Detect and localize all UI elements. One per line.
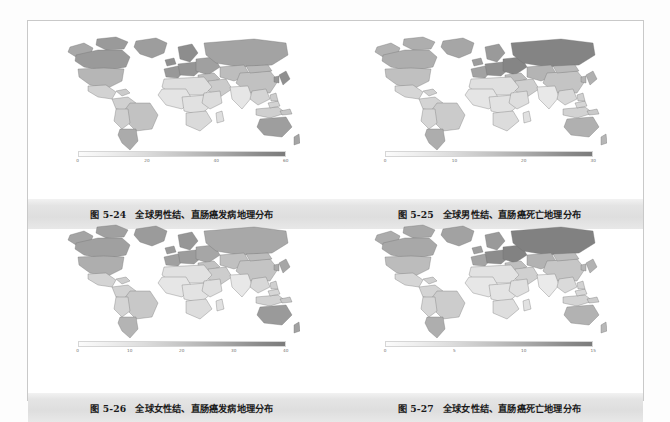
colorbar-tick: 5 — [453, 348, 456, 354]
colorbar-tick-labels: 0 20 40 60 — [78, 158, 286, 168]
world-choropleth-male-incidence-map — [64, 33, 300, 151]
colorbar-tick: 0 — [76, 158, 79, 164]
figure-row-bottom: 0 10 20 30 40 — [28, 211, 643, 401]
colorbar-tick-labels: 0 5 10 15 — [385, 348, 593, 358]
caption-number: 图 5-26 — [90, 401, 126, 415]
colorbar-tick: 10 — [127, 348, 133, 354]
colorbar-gradient-bar — [385, 341, 593, 347]
map-block-5-25 — [336, 33, 644, 158]
page-frame-border: 0 20 40 60 — [27, 20, 644, 401]
caption-number: 图 5-27 — [398, 401, 434, 415]
colorbar-male-incidence: 0 20 40 60 — [78, 151, 286, 168]
colorbar-tick-labels: 0 10 20 30 — [385, 158, 593, 168]
caption-5-27: 图 5-27 全球女性结、直肠癌死亡地理分布 — [336, 393, 644, 422]
colorbar-tick: 30 — [231, 348, 237, 354]
colorbar-tick-labels: 0 10 20 30 40 — [78, 348, 286, 358]
world-choropleth-female-incidence-map — [64, 221, 300, 339]
figure-row-top: 0 20 40 60 — [28, 23, 643, 211]
colorbar-tick: 20 — [179, 348, 185, 354]
figure-5-25: 0 10 20 30 — [336, 23, 644, 211]
colorbar-male-mortality: 0 10 20 30 — [385, 151, 593, 168]
figure-5-27: 0 5 10 15 — [336, 211, 644, 401]
figure-5-26: 0 10 20 30 40 — [28, 211, 336, 401]
caption-title: 全球女性结、直肠癌发病地理分布 — [135, 401, 273, 415]
map-block-5-27 — [336, 221, 644, 346]
figure-5-24: 0 20 40 60 — [28, 23, 336, 211]
world-choropleth-female-mortality-map — [371, 221, 607, 339]
caption-band-bottom: 图 5-26 全球女性结、直肠癌发病地理分布 图 5-27 全球女性结、直肠癌死… — [28, 393, 643, 422]
world-choropleth-male-mortality-map — [371, 33, 607, 151]
colorbar-gradient-bar — [385, 151, 593, 157]
colorbar-tick: 40 — [214, 158, 220, 164]
colorbar-tick: 30 — [590, 158, 596, 164]
colorbar-female-mortality: 0 5 10 15 — [385, 341, 593, 358]
colorbar-tick: 0 — [384, 158, 387, 164]
colorbar-gradient-bar — [78, 151, 286, 157]
colorbar-tick: 15 — [590, 348, 596, 354]
map-block-5-24 — [28, 33, 336, 158]
caption-title: 全球女性结、直肠癌死亡地理分布 — [443, 401, 581, 415]
map-block-5-26 — [28, 221, 336, 346]
colorbar-tick: 10 — [452, 158, 458, 164]
colorbar-gradient-bar — [78, 341, 286, 347]
colorbar-tick: 0 — [76, 348, 79, 354]
caption-5-26: 图 5-26 全球女性结、直肠癌发病地理分布 — [28, 393, 336, 422]
colorbar-tick: 10 — [521, 348, 527, 354]
colorbar-tick: 40 — [283, 348, 289, 354]
colorbar-tick: 60 — [283, 158, 289, 164]
scanned-page: 0 20 40 60 — [0, 0, 670, 422]
colorbar-tick: 20 — [521, 158, 527, 164]
colorbar-tick: 20 — [144, 158, 150, 164]
colorbar-female-incidence: 0 10 20 30 40 — [78, 341, 286, 358]
colorbar-tick: 0 — [384, 348, 387, 354]
